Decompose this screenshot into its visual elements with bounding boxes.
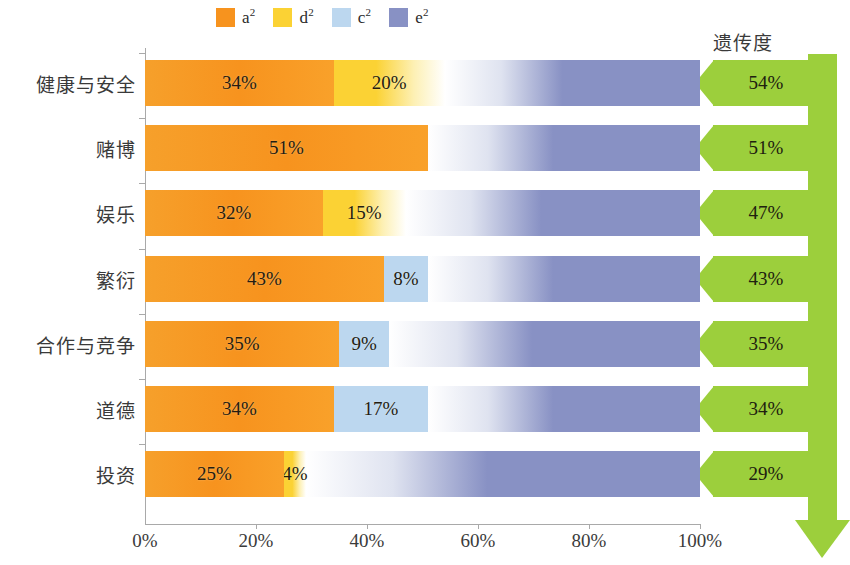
bar-segment-e2[interactable] (406, 190, 700, 236)
bar-segment-a2[interactable]: 51% (145, 125, 428, 171)
x-axis-tick-label: 60% (461, 530, 496, 552)
bar-segment-e2[interactable] (445, 60, 700, 106)
bar-row[interactable]: 34%20% (145, 60, 700, 106)
heritability-value: 35% (713, 321, 819, 367)
bar-segment-value-label: 51% (269, 137, 304, 159)
bar-row[interactable]: 34%17% (145, 386, 700, 432)
heritability-tab[interactable]: 51% (695, 125, 825, 171)
legend-label-e2: e2 (415, 6, 428, 28)
heritability-tab[interactable]: 47% (695, 190, 825, 236)
bar-row[interactable]: 51% (145, 125, 700, 171)
bar-segment-e2[interactable] (389, 321, 700, 367)
heritability-value: 47% (713, 190, 819, 236)
bar-segment-value-label: 9% (352, 333, 377, 355)
x-axis-tick-label: 0% (132, 530, 157, 552)
heritability-tab[interactable]: 43% (695, 256, 825, 302)
heritability-tab[interactable]: 35% (695, 321, 825, 367)
legend-label-sup-a2: 2 (250, 6, 256, 18)
chart-legend: a2d2c2e2 (216, 6, 447, 28)
heritability-value: 54% (713, 60, 819, 106)
bar-segment-d2[interactable]: 4% (284, 451, 306, 497)
legend-swatch-c2-icon (332, 8, 351, 27)
heritability-tab[interactable]: 29% (695, 451, 825, 497)
heritability-value: 43% (713, 256, 819, 302)
bar-segment-value-label: 8% (393, 268, 418, 290)
bar-row[interactable]: 43%8% (145, 256, 700, 302)
bar-segment-value-label: 15% (347, 202, 382, 224)
bar-segment-a2[interactable]: 32% (145, 190, 323, 236)
category-label: 健康与安全 (0, 70, 136, 97)
heritability-tab[interactable]: 54% (695, 60, 825, 106)
heritability-value: 29% (713, 451, 819, 497)
legend-label-sup-d2: 2 (308, 6, 314, 18)
legend-item-a2[interactable]: a2 (216, 6, 255, 28)
x-axis-tick (589, 524, 590, 529)
heritability-arrow-head-icon (795, 520, 850, 558)
bar-segment-value-label: 34% (222, 72, 257, 94)
heritability-value: 34% (713, 386, 819, 432)
category-label: 繁衍 (0, 266, 136, 293)
y-axis-tick (139, 53, 145, 54)
heritability-tab[interactable]: 34% (695, 386, 825, 432)
bar-segment-a2[interactable]: 34% (145, 60, 334, 106)
category-axis-labels: 健康与安全赌博娱乐繁衍合作与竞争道德投资 (0, 48, 136, 524)
legend-label-sup-c2: 2 (366, 6, 372, 18)
bar-segment-value-label: 35% (225, 333, 260, 355)
category-label: 投资 (0, 461, 136, 488)
bar-segment-a2[interactable]: 25% (145, 451, 284, 497)
legend-item-c2[interactable]: c2 (332, 6, 371, 28)
category-label: 赌博 (0, 135, 136, 162)
heritability-value: 51% (713, 125, 819, 171)
bar-segment-c2[interactable]: 8% (384, 256, 428, 302)
heritability-arrow-column: 54%51%47%43%35%34%29% (695, 48, 839, 558)
y-axis-tick (139, 118, 145, 119)
bar-segment-value-label: 25% (197, 463, 232, 485)
legend-label-a2: a2 (242, 6, 255, 28)
legend-item-d2[interactable]: d2 (273, 6, 313, 28)
category-label: 娱乐 (0, 200, 136, 227)
bar-segment-d2[interactable]: 15% (323, 190, 406, 236)
x-axis-tick-label: 80% (572, 530, 607, 552)
bar-segment-e2[interactable] (428, 386, 700, 432)
legend-swatch-d2-icon (273, 8, 292, 27)
x-axis-line (145, 524, 701, 525)
legend-label-sup-e2: 2 (423, 6, 429, 18)
bar-row[interactable]: 25%4% (145, 451, 700, 497)
legend-swatch-a2-icon (216, 8, 235, 27)
bar-segment-value-label: 43% (247, 268, 282, 290)
legend-item-e2[interactable]: e2 (389, 6, 428, 28)
plot-area: 34%20%51%32%15%43%8%35%9%34%17%25%4% (145, 48, 700, 524)
x-axis-tick-label: 20% (239, 530, 274, 552)
category-label: 合作与竞争 (0, 331, 136, 358)
y-axis-tick (139, 314, 145, 315)
x-axis-tick-labels: 0%20%40%60%80%100% (145, 530, 705, 560)
x-axis-tick-label: 40% (350, 530, 385, 552)
legend-swatch-e2-icon (389, 8, 408, 27)
bar-segment-value-label: 32% (216, 202, 251, 224)
category-label: 道德 (0, 396, 136, 423)
legend-label-d2: d2 (299, 6, 313, 28)
bar-segment-a2[interactable]: 35% (145, 321, 339, 367)
bar-segment-d2[interactable]: 20% (334, 60, 445, 106)
x-axis-tick (478, 524, 479, 529)
y-axis-tick (139, 444, 145, 445)
x-axis-tick (256, 524, 257, 529)
bar-segment-value-label: 17% (363, 398, 398, 420)
bar-segment-value-label: 4% (282, 463, 307, 485)
bar-segment-c2[interactable]: 9% (339, 321, 389, 367)
y-axis-tick (139, 249, 145, 250)
bar-segment-a2[interactable]: 43% (145, 256, 384, 302)
bar-row[interactable]: 35%9% (145, 321, 700, 367)
x-axis-tick (367, 524, 368, 529)
bar-row[interactable]: 32%15% (145, 190, 700, 236)
bar-segment-value-label: 20% (372, 72, 407, 94)
bar-segment-e2[interactable] (306, 451, 700, 497)
bar-segment-c2[interactable]: 17% (334, 386, 428, 432)
bar-segment-e2[interactable] (428, 125, 700, 171)
bar-segment-value-label: 34% (222, 398, 257, 420)
y-axis-tick (139, 183, 145, 184)
bar-segment-e2[interactable] (428, 256, 700, 302)
bar-segment-a2[interactable]: 34% (145, 386, 334, 432)
legend-label-c2: c2 (358, 6, 371, 28)
y-axis-tick (139, 379, 145, 380)
